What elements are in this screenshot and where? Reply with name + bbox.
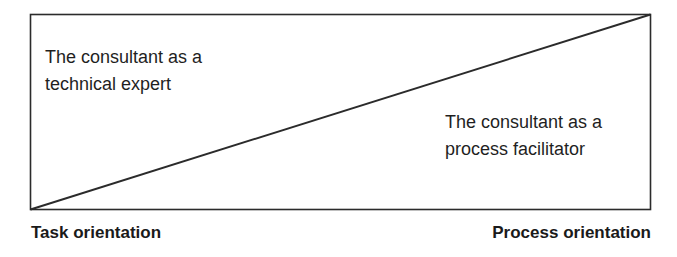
task-orientation-label: Task orientation [31, 222, 161, 244]
process-orientation-label: Process orientation [492, 222, 651, 244]
technical-expert-label: The consultant as a technical expert [45, 44, 202, 98]
technical-expert-line-2: technical expert [45, 71, 202, 98]
process-facilitator-label: The consultant as a process facilitator [445, 109, 602, 163]
process-facilitator-line-2: process facilitator [445, 136, 602, 163]
technical-expert-line-1: The consultant as a [45, 44, 202, 71]
process-facilitator-line-1: The consultant as a [445, 109, 602, 136]
consultant-role-diagram: The consultant as a technical expert The… [0, 0, 677, 257]
